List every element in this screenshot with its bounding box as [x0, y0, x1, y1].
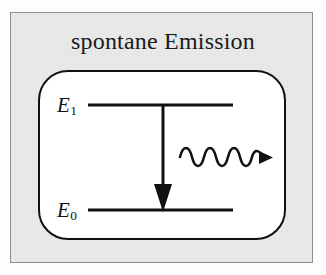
energy-subscript-upper: 1	[70, 103, 77, 118]
level-diagram-graphics	[0, 0, 326, 275]
energy-level-label-upper: E1	[57, 93, 77, 119]
photon-wave-path	[180, 148, 263, 166]
figure-root: spontane Emission E1 E0	[0, 0, 326, 275]
energy-level-label-lower: E0	[57, 198, 77, 224]
transition-arrowhead-icon	[154, 184, 172, 212]
energy-symbol-lower: E	[57, 198, 70, 222]
energy-symbol-upper: E	[57, 93, 70, 117]
energy-subscript-lower: 0	[70, 208, 77, 223]
photon-arrowhead-icon	[259, 151, 273, 164]
